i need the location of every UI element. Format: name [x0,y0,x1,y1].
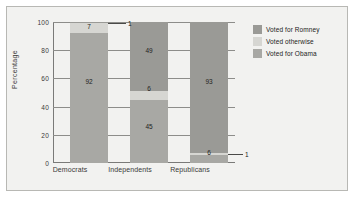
y-tick-80: 80 [23,47,49,54]
bar-label-independents-otherwise: 6 [130,85,168,92]
chart-figure: 100 80 60 40 20 0 Percentage 92 7 45 6 [0,0,356,199]
callout-label-republicans-otherwise: 1 [245,150,249,157]
callout-line-republicans-otherwise [228,154,243,155]
plot-area: 92 7 45 6 49 6 93 1 1 [53,22,235,163]
callout-label-democrats-romney: 1 [128,19,132,26]
legend-label-obama: Voted for Obama [266,50,317,57]
y-tick-100: 100 [23,19,49,26]
bar-segment-independents-romney[interactable] [130,22,168,91]
y-tick-60: 60 [23,75,49,82]
bar-segment-independents-obama[interactable] [130,100,168,163]
legend-item-obama[interactable]: Voted for Obama [253,48,345,59]
bar-segment-republicans-romney[interactable] [190,22,228,153]
bar-segment-republicans-obama[interactable] [190,155,228,164]
bar-segment-democrats-obama[interactable] [70,33,108,163]
legend-item-romney[interactable]: Voted for Romney [253,24,345,35]
bar-group-republicans[interactable]: 6 93 [190,22,228,163]
bar-label-republicans-obama: 6 [190,148,228,155]
legend-label-romney: Voted for Romney [266,26,320,33]
bar-segment-independents-otherwise[interactable] [130,91,168,100]
bar-label-democrats-otherwise: 7 [70,22,108,29]
bar-label-independents-obama: 45 [130,123,168,130]
legend-swatch-obama [253,49,262,58]
bar-label-independents-romney: 49 [130,47,168,54]
x-tick-republicans: Republicans [154,166,226,173]
bar-label-democrats-obama: 92 [70,78,108,85]
chart-legend: Voted for Romney Voted otherwise Voted f… [253,24,345,60]
legend-item-otherwise[interactable]: Voted otherwise [253,36,345,47]
y-axis-tick-labels: 100 80 60 40 20 0 [20,22,49,163]
y-tick-40: 40 [23,103,49,110]
legend-label-otherwise: Voted otherwise [266,38,314,45]
y-tick-20: 20 [23,131,49,138]
callout-line-democrats-romney [108,23,126,24]
bar-label-republicans-romney: 93 [190,78,228,85]
y-axis-title: Percentage [11,30,18,110]
legend-swatch-otherwise [253,37,262,46]
bar-group-independents[interactable]: 45 6 49 [130,22,168,163]
legend-swatch-romney [253,25,262,34]
bar-group-democrats[interactable]: 92 7 [70,22,108,163]
